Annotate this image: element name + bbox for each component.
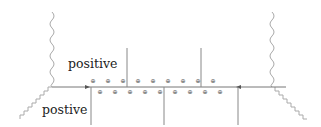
positron-charge-icon: ⊕	[187, 89, 192, 95]
right-photon-diagonal	[275, 87, 307, 119]
positron-charge-icon: ⊕	[97, 89, 102, 95]
positron-charge-icon: ⊕	[165, 78, 170, 84]
left-photon-vertical	[50, 12, 54, 87]
positron-charge-icon: ⊕	[172, 89, 177, 95]
arrow-right-icon	[85, 85, 90, 89]
right-photon-vertical	[270, 12, 274, 87]
positron-charge-icon: ⊕	[142, 89, 147, 95]
positron-charge-icon: ⊕	[112, 89, 117, 95]
positron-charge-icon: ⊕	[202, 89, 207, 95]
positron-charge-icon: ⊕	[157, 89, 162, 95]
positron-charge-icon: ⊕	[105, 78, 110, 84]
label-postive: postive	[42, 104, 87, 117]
positron-charge-icon: ⊕	[90, 78, 95, 84]
positron-charge-icon: ⊕	[150, 78, 155, 84]
feynman-diagram: positive postive ⊕⊕⊕⊕⊕⊕⊕⊕⊕⊕⊕⊕⊕⊕⊕⊕⊕⊕	[0, 0, 321, 127]
positron-charge-icon: ⊕	[120, 78, 125, 84]
positron-charge-icon: ⊕	[127, 89, 132, 95]
positron-charge-icon: ⊕	[180, 78, 185, 84]
positron-charge-icon: ⊕	[210, 78, 215, 84]
positron-charge-icon: ⊕	[135, 78, 140, 84]
positron-charge-icon: ⊕	[195, 78, 200, 84]
label-positive: positive	[68, 58, 117, 71]
positron-charge-icon: ⊕	[217, 89, 222, 95]
